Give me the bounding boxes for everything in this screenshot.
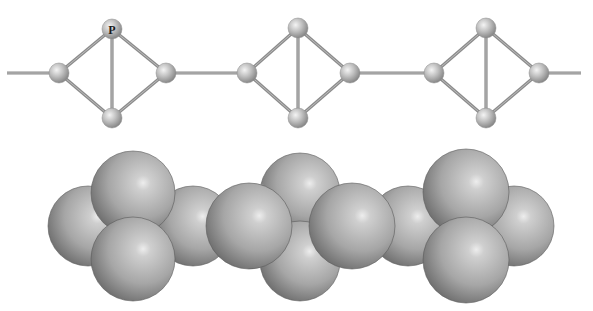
phosphorus-atom — [476, 18, 496, 38]
phosphorus-atom — [288, 18, 308, 38]
p-p-bond — [112, 29, 166, 73]
p-p-bond — [298, 28, 350, 73]
p-p-bond — [298, 73, 350, 118]
phosphorus-atom — [156, 63, 176, 83]
phosphorus-atom — [424, 63, 444, 83]
phosphorus-atom — [288, 108, 308, 128]
phosphorus-atom — [529, 63, 549, 83]
molecule-diagram: P — [0, 0, 593, 311]
p-p-bond — [434, 73, 486, 118]
atom-label-p: P — [108, 23, 115, 37]
phosphorus-atom — [49, 63, 69, 83]
phosphorus-atom — [102, 108, 122, 128]
p-p-bond — [486, 28, 539, 73]
p-p-bond — [112, 73, 166, 118]
phosphorus-atom — [340, 63, 360, 83]
p-p-bond — [59, 29, 112, 73]
space-filling-model — [48, 149, 554, 303]
phosphorus-sphere — [91, 217, 175, 301]
p-p-bond — [434, 28, 486, 73]
phosphorus-atom: P — [102, 19, 122, 39]
phosphorus-atom — [476, 108, 496, 128]
phosphorus-atom — [237, 63, 257, 83]
phosphorus-sphere — [309, 183, 395, 269]
phosphorus-sphere — [423, 217, 509, 303]
p-p-bond — [59, 73, 112, 118]
phosphorus-structure-figure: P — [0, 0, 593, 311]
phosphorus-sphere — [206, 183, 292, 269]
p-p-bond — [486, 73, 539, 118]
ball-and-stick-model: P — [7, 18, 581, 128]
